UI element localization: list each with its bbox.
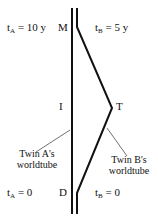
event-i-label: I: [59, 101, 63, 112]
twin-a-final-time: tA = 10 y: [7, 22, 46, 37]
twin-b-caption: Twin B's worldtube: [104, 154, 154, 176]
twin-a-caption: Twin A's worldtube: [12, 148, 62, 170]
twin-b-start-time: tB = 0: [95, 187, 120, 202]
event-d-label: D: [59, 187, 67, 198]
twin-b-final-time: tB = 5 y: [95, 22, 128, 37]
twin-b-pointer: [107, 128, 127, 156]
event-t-label: T: [116, 101, 123, 112]
twin-b-worldline: [77, 8, 112, 214]
twin-a-start-time: tA = 0: [7, 187, 32, 202]
event-m-label: M: [58, 22, 68, 33]
